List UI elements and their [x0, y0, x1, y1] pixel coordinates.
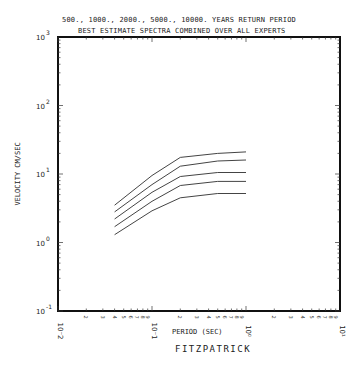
- x-minor-tick-label: 4: [112, 315, 118, 318]
- x-minor-tick-label: 5: [121, 315, 127, 318]
- plot-area: 10-1100101102103234567892345678923456789…: [0, 0, 357, 366]
- y-tick-label: 10: [36, 103, 45, 111]
- x-tick-label: 10¹: [338, 325, 346, 337]
- series-line-3: [115, 181, 246, 226]
- x-axis-label: PERIOD (SEC): [172, 328, 223, 336]
- y-tick-exponent: -1: [46, 303, 52, 310]
- x-minor-tick-label: 9: [239, 315, 245, 318]
- y-tick-label: 10: [36, 171, 45, 179]
- y-tick-label: 10: [36, 34, 45, 42]
- x-minor-tick-label: 5: [215, 315, 221, 318]
- series-line-2: [115, 173, 246, 220]
- y-tick-exponent: 1: [46, 166, 50, 173]
- x-minor-tick-label: 6: [316, 315, 322, 318]
- y-tick-exponent: 0: [46, 235, 50, 242]
- x-minor-tick-label: 7: [134, 315, 140, 318]
- x-minor-tick-label: 3: [100, 315, 106, 318]
- x-minor-tick-label: 6: [128, 315, 134, 318]
- y-tick-label: 10: [36, 240, 45, 248]
- x-tick-label: 10⁰: [244, 325, 252, 337]
- x-minor-tick-label: 5: [309, 315, 315, 318]
- y-tick-exponent: 2: [46, 98, 50, 105]
- x-minor-tick-label: 9: [145, 315, 151, 318]
- x-tick-label: 10⁻1: [150, 322, 158, 339]
- x-minor-tick-label: 3: [288, 315, 294, 318]
- x-minor-tick-label: 9: [333, 315, 339, 318]
- x-minor-tick-label: 4: [300, 315, 306, 318]
- x-minor-tick-label: 6: [222, 315, 228, 318]
- x-tick-label: 10⁻2: [56, 322, 64, 339]
- x-minor-tick-label: 2: [83, 315, 89, 318]
- series-line-4: [115, 194, 246, 235]
- x-minor-tick-label: 2: [271, 315, 277, 318]
- x-minor-tick-label: 7: [322, 315, 328, 318]
- x-minor-tick-label: 4: [206, 315, 212, 318]
- x-minor-tick-label: 7: [228, 315, 234, 318]
- x-minor-tick-label: 3: [194, 315, 200, 318]
- y-tick-exponent: 3: [46, 29, 50, 36]
- y-axis-label: VELOCITY CM/SEC: [14, 142, 22, 205]
- x-minor-tick-label: 2: [177, 315, 183, 318]
- y-tick-label: 10: [36, 308, 45, 316]
